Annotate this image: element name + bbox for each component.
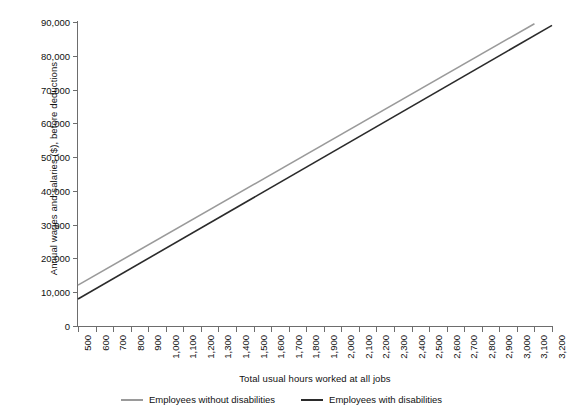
series-line xyxy=(78,24,534,285)
chart-legend: Employees without disabilitiesEmployees … xyxy=(0,394,563,405)
legend-swatch-icon xyxy=(301,399,323,401)
series-line xyxy=(78,25,552,299)
x-axis-title: Total usual hours worked at all jobs xyxy=(78,373,552,384)
legend-item[interactable]: Employees with disabilities xyxy=(301,394,442,405)
legend-swatch-icon xyxy=(121,399,143,401)
legend-item[interactable]: Employees without disabilities xyxy=(121,394,275,405)
legend-label: Employees with disabilities xyxy=(329,394,442,405)
legend-label: Employees without disabilities xyxy=(149,394,275,405)
